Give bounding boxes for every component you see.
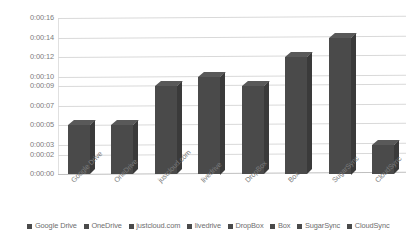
bar-side-face [264,81,269,174]
bar[interactable] [68,125,90,174]
legend-swatch-icon [187,224,192,229]
y-axis-tick-label: 0:00:03 [30,141,54,149]
legend-swatch-icon [84,224,89,229]
bar-front-face [329,38,351,175]
bar[interactable] [198,77,220,175]
bar-side-face [394,140,399,174]
bar[interactable] [372,145,394,174]
legend-item[interactable]: livedrive [187,222,221,230]
bar-front-face [111,125,133,174]
legend-label: livedrive [195,222,221,230]
bar-side-face [133,120,138,174]
y-axis-tick-label: 0:00:09 [30,82,54,90]
y-axis-tick-label: 0:00:14 [30,34,54,42]
legend-item[interactable]: Google Drive [27,222,76,230]
legend-label: Box [278,222,290,230]
bar-side-face [90,120,95,174]
legend-item[interactable]: SugarSync [297,222,340,230]
bar-front-face [198,77,220,175]
bar-front-face [285,57,307,174]
legend-label: justcloud.com [136,222,180,230]
bar[interactable] [155,86,177,174]
bar[interactable] [329,38,351,175]
legend-item[interactable]: CloudSync [347,222,389,230]
bar-side-face [351,33,356,175]
legend-item[interactable]: DropBox [228,222,264,230]
bar-front-face [242,86,264,174]
bar-front-face [155,86,177,174]
bar-chart: 0:00:160:00:140:00:120:00:100:00:090:00:… [0,0,417,241]
legend-item[interactable]: justcloud.com [129,222,180,230]
bar[interactable] [285,57,307,174]
legend-label: OneDrive [91,222,121,230]
y-axis: 0:00:160:00:140:00:120:00:100:00:090:00:… [0,0,54,241]
plot-area [58,18,406,174]
bar-side-face [177,81,182,174]
gridline [58,16,406,19]
legend-label: Google Drive [35,222,77,230]
legend-swatch-icon [297,224,302,229]
bar-front-face [372,145,394,174]
y-axis-tick-label: 0:00:16 [30,14,54,22]
y-axis-tick-label: 0:00:02 [30,151,54,159]
y-axis-tick-label: 0:00:12 [30,53,54,61]
legend-label: CloudSync [355,222,390,230]
chart-legend: Google DriveOneDrivejustcloud.comlivedri… [0,222,417,230]
bar[interactable] [242,86,264,174]
y-axis-tick-label: 0:00:05 [30,121,54,129]
legend-label: DropBox [235,222,263,230]
y-axis-tick-label: 0:00:07 [30,102,54,110]
y-axis-tick-label: 0:00:10 [30,73,54,81]
bar[interactable] [111,125,133,174]
legend-label: SugarSync [305,222,340,230]
legend-swatch-icon [27,224,32,229]
bar-side-face [307,52,312,174]
legend-item[interactable]: Box [270,222,290,230]
legend-swatch-icon [228,224,233,229]
bar-side-face [220,72,225,175]
legend-item[interactable]: OneDrive [84,222,122,230]
plot-left-wall [58,18,59,174]
legend-swatch-icon [270,224,275,229]
legend-swatch-icon [129,224,134,229]
y-axis-tick-label: 0:00:00 [30,170,54,178]
axis-baseline [58,172,406,175]
legend-swatch-icon [347,224,352,229]
bar-front-face [68,125,90,174]
